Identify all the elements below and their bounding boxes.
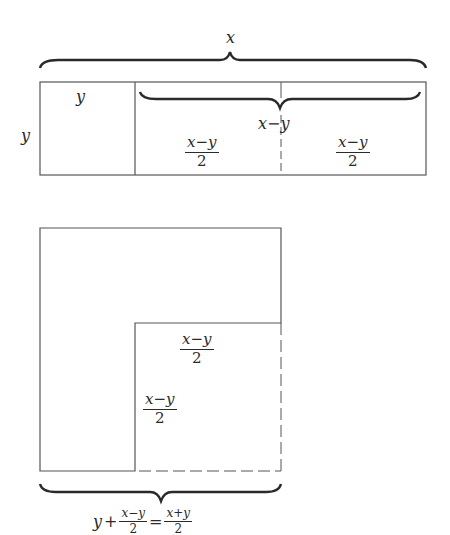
label-x-width: x bbox=[226, 30, 235, 46]
fraction-left-half: x−y 2 bbox=[185, 135, 219, 170]
label-y-height: y bbox=[21, 128, 30, 144]
fraction-right-half: x−y 2 bbox=[336, 135, 370, 170]
top-brace-x bbox=[40, 52, 426, 68]
inner-brace-x-minus-y bbox=[140, 92, 420, 108]
eq-y: y bbox=[93, 512, 102, 531]
eq-frac-x-plus-y: x+y 2 bbox=[164, 507, 192, 535]
bottom-brace bbox=[40, 484, 281, 501]
eq-plus: + bbox=[104, 512, 117, 531]
bottom-equation: y + x−y 2 = x+y 2 bbox=[93, 507, 192, 535]
eq-equals: = bbox=[149, 512, 162, 531]
diagram-canvas bbox=[0, 0, 450, 535]
fraction-inner-top: x−y 2 bbox=[180, 332, 214, 367]
bottom-l-shape bbox=[40, 228, 281, 471]
eq-frac-x-minus-y: x−y 2 bbox=[119, 507, 147, 535]
fraction-inner-side: x−y 2 bbox=[143, 392, 177, 427]
label-x-minus-y: x−y bbox=[258, 116, 289, 132]
label-y-square: y bbox=[76, 89, 85, 105]
